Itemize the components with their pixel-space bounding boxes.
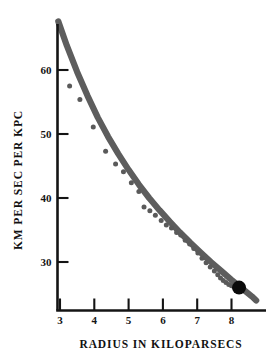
data-point-dot xyxy=(136,189,141,194)
sun-marker-dot xyxy=(232,281,246,295)
y-tick-label: 60 xyxy=(41,64,53,76)
data-point-dot xyxy=(191,246,196,251)
x-tick-label: 3 xyxy=(57,314,63,326)
x-tick-label: 4 xyxy=(92,314,98,326)
data-point-dot xyxy=(67,84,72,89)
rotation-curve-figure: 30405060345678 RADIUS IN KILOPARSECS KM … xyxy=(0,0,273,355)
y-axis-title: KM PER SEC PER KPC xyxy=(12,110,24,250)
data-point-dot xyxy=(129,180,134,185)
data-point-dot xyxy=(208,265,213,270)
x-axis-title: RADIUS IN KILOPARSECS xyxy=(79,338,242,350)
data-point-dot xyxy=(212,268,217,273)
y-tick-label: 40 xyxy=(41,192,53,204)
data-point-dot xyxy=(174,230,179,235)
data-point-dot xyxy=(169,226,174,231)
y-tick-label: 30 xyxy=(41,256,53,268)
data-point-dot xyxy=(142,204,147,209)
data-point-dot xyxy=(103,149,108,154)
data-point-dot xyxy=(77,97,82,102)
data-point-dot xyxy=(187,242,192,247)
data-point-dot xyxy=(91,124,96,129)
data-point-dot xyxy=(164,222,169,227)
data-point-dot xyxy=(147,208,152,213)
x-tick-label: 7 xyxy=(194,314,200,326)
data-point-dot xyxy=(204,260,209,265)
data-point-dot xyxy=(195,251,200,256)
data-point-dot xyxy=(200,256,205,261)
data-point-dot xyxy=(183,238,188,243)
x-tick-label: 5 xyxy=(126,314,132,326)
data-point-dot xyxy=(159,218,164,223)
x-tick-label: 8 xyxy=(229,314,235,326)
data-point-dot xyxy=(121,169,126,174)
data-point-dot xyxy=(178,233,183,238)
y-tick-label: 50 xyxy=(41,128,53,140)
data-point-dot xyxy=(113,162,118,167)
x-tick-label: 6 xyxy=(160,314,166,326)
data-point-dot xyxy=(153,213,158,218)
